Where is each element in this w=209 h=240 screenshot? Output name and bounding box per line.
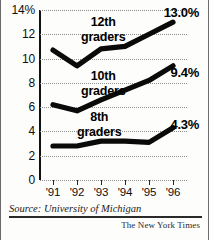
series-label: 12thgraders bbox=[81, 16, 125, 43]
series-label-line1: 12th bbox=[81, 16, 125, 29]
y-tick-label: 14% bbox=[12, 4, 35, 16]
series-label-line1: 8th bbox=[77, 111, 121, 124]
y-axis-labels: 14%121086420 bbox=[1, 10, 35, 180]
x-tick-label: '94 bbox=[118, 186, 132, 198]
x-tick-label: '96 bbox=[166, 186, 180, 198]
x-tick bbox=[125, 180, 126, 185]
plot-area: 12thgraders10thgraders8thgraders bbox=[39, 10, 187, 180]
series-label: 10thgraders bbox=[81, 70, 125, 97]
x-tick bbox=[101, 180, 102, 185]
x-tick bbox=[77, 180, 78, 185]
series-label-line1: 10th bbox=[81, 70, 125, 83]
footer-divider bbox=[9, 216, 202, 218]
series-label-line2: graders bbox=[77, 126, 121, 139]
x-tick-label: '92 bbox=[70, 186, 84, 198]
chart-figure: 14%121086420 12thgraders10thgraders8thgr… bbox=[0, 0, 209, 240]
y-tick-label: 10 bbox=[22, 53, 35, 65]
x-tick bbox=[173, 180, 174, 185]
x-tick-label: '95 bbox=[142, 186, 156, 198]
y-tick-label: 2 bbox=[29, 150, 35, 162]
x-axis: '91'92'93'94'95'96 bbox=[39, 180, 187, 204]
series-end-value: 9.4% bbox=[171, 65, 199, 80]
x-tick-label: '93 bbox=[94, 186, 108, 198]
series-label-line2: graders bbox=[81, 31, 125, 44]
series-label-line2: graders bbox=[81, 85, 125, 98]
series-label: 8thgraders bbox=[77, 111, 121, 138]
y-tick-label: 8 bbox=[29, 77, 35, 89]
x-tick bbox=[53, 180, 54, 185]
x-tick-label: '91 bbox=[46, 186, 60, 198]
series-end-value: 13.0% bbox=[164, 5, 199, 20]
x-tick bbox=[149, 180, 150, 185]
y-tick-label: 0 bbox=[29, 174, 35, 186]
y-tick-label: 4 bbox=[29, 125, 35, 137]
source-text: Source: University of Michigan bbox=[9, 203, 202, 214]
y-tick-label: 12 bbox=[22, 28, 35, 40]
y-tick-label: 6 bbox=[29, 101, 35, 113]
publisher-credit: The New York Times bbox=[121, 220, 200, 230]
series-end-value: 4.3% bbox=[171, 117, 199, 132]
